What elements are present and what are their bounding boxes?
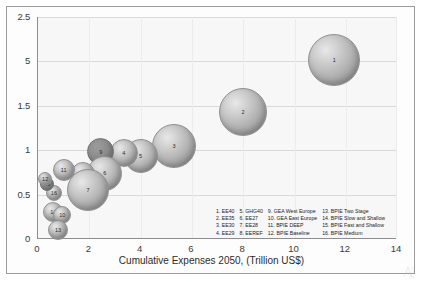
x-tick-label: 4 bbox=[129, 243, 151, 254]
legend-item: 15. BPIE Fast and Shallow bbox=[322, 222, 390, 229]
legend-item-label: BPIE Baseline bbox=[277, 230, 310, 236]
legend-item-number: 14. bbox=[322, 215, 331, 221]
gridline-x bbox=[141, 17, 142, 238]
bubble-chart-figure: 12354968711161514101312 1. EE405. GHG409… bbox=[0, 0, 423, 282]
x-tick-label: 0 bbox=[26, 243, 48, 254]
legend-item-number: 10. bbox=[268, 215, 277, 221]
legend-item: 9. GEA West Europe bbox=[268, 208, 322, 215]
gridline-x bbox=[295, 17, 296, 238]
x-tick-label: 12 bbox=[334, 243, 356, 254]
legend-row: 3. EE307. EE2811. BPIE DEEP15. BPIE Fast… bbox=[216, 222, 390, 229]
legend-item-label: BPIE Two Stage bbox=[331, 208, 369, 214]
legend-item-number: 15. bbox=[322, 222, 331, 228]
legend-item-label: GEA East Europe bbox=[277, 215, 318, 221]
legend-item-label: BPIE DEEP bbox=[276, 222, 303, 228]
legend-item-label: EE27 bbox=[245, 215, 258, 221]
legend-item-label: EE29 bbox=[222, 230, 235, 236]
legend-item-label: BPIE Medium bbox=[331, 230, 363, 236]
y-tick-label: 2.5 bbox=[4, 11, 30, 22]
x-tick-label: 8 bbox=[231, 243, 253, 254]
legend-item: 2. EE35 bbox=[216, 215, 239, 222]
legend-item: 8. EEREF bbox=[239, 230, 267, 237]
legend-item: 10. GEA East Europe bbox=[268, 215, 322, 222]
legend-row: 1. EE405. GHG409. GEA West Europe13. BPI… bbox=[216, 208, 390, 215]
y-tick-label: 1 bbox=[4, 144, 30, 155]
legend-item: 11. BPIE DEEP bbox=[268, 222, 322, 229]
x-tick-label: 10 bbox=[282, 243, 304, 254]
legend-item: 6. EE27 bbox=[239, 215, 267, 222]
legend-row: 4. EE298. EEREF12. BPIE Baseline16. BPIE… bbox=[216, 230, 390, 237]
chart-legend: 1. EE405. GHG409. GEA West Europe13. BPI… bbox=[216, 208, 390, 237]
legend-item: 4. EE29 bbox=[216, 230, 239, 237]
legend-item-number: 13. bbox=[322, 208, 331, 214]
bubble-13[interactable] bbox=[48, 220, 68, 240]
legend-item-label: GEA West Europe bbox=[274, 208, 316, 214]
gridline-y bbox=[38, 106, 396, 107]
bubble-12[interactable] bbox=[38, 172, 52, 186]
legend-item-label: GHG40 bbox=[245, 208, 263, 214]
bubble-2[interactable] bbox=[219, 88, 267, 136]
legend-item-number: 16. bbox=[322, 230, 331, 236]
bubble-11[interactable] bbox=[53, 159, 75, 181]
x-tick-label: 2 bbox=[77, 243, 99, 254]
plot-area: 12354968711161514101312 1. EE405. GHG409… bbox=[37, 17, 396, 239]
y-tick-label: 0.5 bbox=[4, 189, 30, 200]
gridline-x bbox=[192, 17, 193, 238]
y-tick-label: 5 bbox=[4, 55, 30, 66]
legend-item: 3. EE30 bbox=[216, 222, 239, 229]
legend-item: 7. EE28 bbox=[239, 222, 267, 229]
legend-item: 13. BPIE Two Stage bbox=[322, 208, 390, 215]
legend-item: 5. GHG40 bbox=[239, 208, 267, 215]
x-tick-label: 14 bbox=[385, 243, 407, 254]
legend-item-label: BPIE Fast and Shallow bbox=[331, 222, 384, 228]
legend-item: 14. BPIE Slow and Shallow bbox=[322, 215, 390, 222]
legend-item-number: 11. bbox=[268, 222, 276, 228]
legend-item-label: BPIE Slow and Shallow bbox=[331, 215, 385, 221]
legend-item: 16. BPIE Medium bbox=[322, 230, 390, 237]
legend-item: 1. EE40 bbox=[216, 208, 239, 215]
legend-item-label: EE40 bbox=[222, 208, 235, 214]
x-axis-label: Cumulative Expenses 2050, (Trillion US$) bbox=[0, 255, 423, 266]
gridline-x bbox=[396, 17, 397, 238]
legend-item-label: EE28 bbox=[245, 222, 258, 228]
legend-item-label: EEREF bbox=[245, 230, 262, 236]
legend-item: 12. BPIE Baseline bbox=[268, 230, 322, 237]
bubble-3[interactable] bbox=[152, 124, 196, 168]
legend-item-number: 12. bbox=[268, 230, 277, 236]
legend-item-label: EE30 bbox=[222, 222, 235, 228]
bubble-1[interactable] bbox=[308, 34, 360, 86]
x-tick-label: 6 bbox=[180, 243, 202, 254]
y-tick-label: 1.5 bbox=[4, 100, 30, 111]
legend-table: 1. EE405. GHG409. GEA West Europe13. BPI… bbox=[216, 208, 390, 237]
legend-row: 2. EE356. EE2710. GEA East Europe14. BPI… bbox=[216, 215, 390, 222]
legend-item-label: EE35 bbox=[222, 215, 235, 221]
gridline-y bbox=[38, 17, 396, 18]
corner-watermark-icon bbox=[403, 266, 417, 278]
